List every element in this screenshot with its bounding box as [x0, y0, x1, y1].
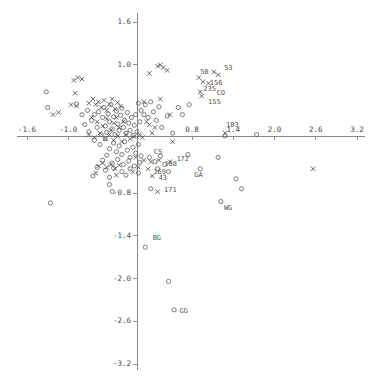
- point-annotation: 235: [203, 85, 216, 93]
- data-point-circle: [219, 199, 223, 203]
- data-point-circle: [105, 130, 109, 134]
- data-point-cross: [147, 122, 151, 126]
- data-point-circle: [154, 118, 158, 122]
- axes-layer: [17, 13, 366, 369]
- data-point-cross: [56, 110, 60, 114]
- data-point-cross: [76, 75, 80, 79]
- data-point-circle: [171, 131, 175, 135]
- data-point-cross: [120, 140, 124, 144]
- y-tick-label: 1.6: [117, 18, 131, 26]
- data-point-cross: [72, 78, 76, 82]
- data-point-cross: [111, 121, 115, 125]
- point-annotation: 43: [159, 174, 167, 182]
- data-point-circle: [120, 152, 124, 156]
- data-point-cross: [91, 97, 95, 101]
- y-tick-label: -2.6: [113, 317, 131, 325]
- data-point-circle: [138, 120, 142, 124]
- data-point-cross: [157, 158, 161, 162]
- point-annotation: WG: [224, 204, 232, 212]
- data-point-circle: [101, 115, 105, 119]
- data-point-circle: [131, 145, 135, 149]
- point-annotation: CO: [217, 89, 225, 97]
- x-tick-label: -1.6: [18, 126, 36, 134]
- data-point-circle: [139, 108, 143, 112]
- data-point-cross: [131, 169, 135, 173]
- data-point-circle: [121, 162, 125, 166]
- data-point-cross: [155, 189, 159, 193]
- data-point-cross: [198, 90, 202, 94]
- data-point-cross: [109, 128, 113, 132]
- data-point-cross: [132, 135, 136, 139]
- data-point-circle: [187, 103, 191, 107]
- data-point-circle: [153, 160, 157, 164]
- y-tick-label: -0.8: [113, 189, 131, 197]
- data-point-circle: [105, 153, 109, 157]
- data-point-cross: [103, 137, 107, 141]
- data-point-circle: [125, 148, 129, 152]
- x-tick-label: 0.8: [185, 126, 199, 134]
- data-point-circle: [132, 164, 136, 168]
- data-point-circle: [95, 125, 99, 129]
- data-point-circle: [74, 102, 78, 106]
- data-point-circle: [216, 155, 220, 159]
- point-annotation: GG: [180, 307, 188, 315]
- data-point-cross: [99, 105, 103, 109]
- data-point-circle: [118, 113, 122, 117]
- data-point-circle: [85, 108, 89, 112]
- data-point-circle: [167, 279, 171, 283]
- data-point-cross: [117, 163, 121, 167]
- data-point-circle: [180, 113, 184, 117]
- data-point-circle: [48, 201, 52, 205]
- data-point-circle: [146, 115, 150, 119]
- data-point-cross: [102, 98, 106, 102]
- data-point-circle: [117, 144, 121, 148]
- data-point-cross: [149, 159, 153, 163]
- data-point-cross: [109, 162, 113, 166]
- data-point-circle: [127, 121, 131, 125]
- point-annotation: 155: [208, 98, 221, 106]
- data-point-cross: [111, 138, 115, 142]
- data-point-circle: [129, 115, 133, 119]
- data-point-circle: [125, 110, 129, 114]
- data-point-cross: [110, 97, 114, 101]
- data-point-circle: [157, 105, 161, 109]
- data-point-cross: [212, 70, 216, 74]
- x-tick-label: 2.6: [309, 126, 323, 134]
- data-point-cross: [161, 65, 165, 69]
- data-point-circle: [120, 170, 124, 174]
- point-annotation: 53: [224, 64, 232, 72]
- data-point-circle: [46, 105, 50, 109]
- data-point-circle: [176, 105, 180, 109]
- point-annotation: 103: [226, 121, 239, 129]
- plot-canvas: [0, 0, 389, 381]
- data-point-circle: [151, 110, 155, 114]
- data-point-cross: [73, 91, 77, 95]
- data-point-circle: [107, 182, 111, 186]
- data-point-cross: [107, 102, 111, 106]
- point-annotation: 172: [176, 155, 189, 163]
- data-point-circle: [127, 159, 131, 163]
- data-point-circle: [234, 177, 238, 181]
- data-point-circle: [96, 110, 100, 114]
- data-point-cross: [105, 117, 109, 121]
- data-point-cross: [89, 115, 93, 119]
- data-point-cross: [100, 161, 104, 165]
- data-point-circle: [138, 160, 142, 164]
- data-point-cross: [100, 124, 104, 128]
- point-annotation: 168: [164, 160, 177, 168]
- data-point-cross: [80, 77, 84, 81]
- data-point-circle: [83, 123, 87, 127]
- data-point-cross: [51, 112, 55, 116]
- scatter-plot-figure: -1.6-1.00.81.42.02.63.21.61.0-0.8-1.4-2.…: [0, 0, 389, 381]
- point-annotation: GA: [194, 171, 202, 179]
- data-point-cross: [171, 140, 175, 144]
- data-point-cross: [95, 120, 99, 124]
- data-point-cross: [311, 167, 315, 171]
- data-point-cross: [113, 167, 117, 171]
- data-point-cross: [146, 167, 150, 171]
- point-annotation: 171: [164, 186, 177, 194]
- point-annotation: CS: [154, 148, 162, 156]
- data-point-circle: [149, 187, 153, 191]
- data-point-circle: [114, 109, 118, 113]
- data-point-cross: [94, 171, 98, 175]
